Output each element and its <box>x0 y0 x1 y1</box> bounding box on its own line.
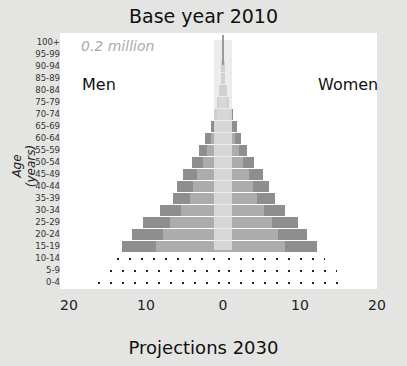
women-label: Women <box>318 75 378 94</box>
x-tick-label: 20 <box>54 297 84 313</box>
age-tick-label: 20-24 <box>18 229 60 239</box>
age-tick-label: 100+ <box>18 37 60 47</box>
men-bar <box>105 265 223 276</box>
women-base-bar <box>223 241 285 252</box>
x-tick-label: 0 <box>208 297 238 313</box>
unit-annotation: 0.2 million <box>81 38 154 54</box>
age-tick-label: 90-94 <box>18 61 60 71</box>
x-tick-label: 10 <box>285 297 315 313</box>
women-bar <box>223 277 343 288</box>
x-tick-label: 10 <box>131 297 161 313</box>
age-tick-label: 25-29 <box>18 217 60 227</box>
x-tick-label: 20 <box>362 297 392 313</box>
men-label: Men <box>82 75 116 94</box>
age-tick-label: 35-39 <box>18 193 60 203</box>
age-tick-label: 55-59 <box>18 145 60 155</box>
age-tick-label: 85-89 <box>18 73 60 83</box>
men-bar <box>93 277 223 288</box>
age-tick-label: 60-64 <box>18 133 60 143</box>
age-tick-label: 95-99 <box>18 49 60 59</box>
women-bar <box>223 265 337 276</box>
axis-spike <box>222 35 224 65</box>
age-tick-label: 45-49 <box>18 169 60 179</box>
age-tick-label: 0-4 <box>18 277 60 287</box>
age-tick-label: 80-84 <box>18 85 60 95</box>
age-tick-label: 15-19 <box>18 241 60 251</box>
age-tick-label: 30-34 <box>18 205 60 215</box>
age-tick-label: 40-44 <box>18 181 60 191</box>
center-band <box>214 40 232 250</box>
age-tick-label: 10-14 <box>18 253 60 263</box>
women-bar <box>223 253 325 264</box>
age-tick-label: 70-74 <box>18 109 60 119</box>
age-tick-label: 5-9 <box>18 265 60 275</box>
age-tick-label: 75-79 <box>18 97 60 107</box>
men-base-bar <box>156 241 223 252</box>
footer-title: Projections 2030 <box>0 337 407 358</box>
age-tick-label: 50-54 <box>18 157 60 167</box>
men-bar <box>112 253 223 264</box>
age-tick-label: 65-69 <box>18 121 60 131</box>
